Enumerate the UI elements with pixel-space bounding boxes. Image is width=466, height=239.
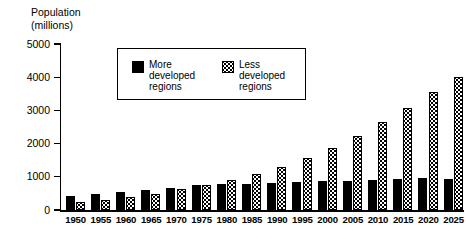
legend-entry-more-developed: Moredevelopedregions: [132, 59, 195, 93]
bar-2005-more-developed: [343, 181, 352, 210]
bar-2015-less-developed: [403, 108, 412, 210]
x-tick-label-1960: 1960: [113, 214, 138, 225]
bar-group-2010: [365, 44, 390, 210]
y-tick-label-2000: 2000: [4, 138, 50, 148]
bar-1995-more-developed: [292, 182, 301, 210]
x-tick-label-2025: 2025: [441, 214, 466, 225]
x-tick-label-2000: 2000: [315, 214, 340, 225]
x-tick-label-1950: 1950: [63, 214, 88, 225]
legend-label-less-developed: Lessdevelopedregions: [239, 59, 285, 93]
bar-2005-less-developed: [353, 136, 362, 210]
chart-axis-title: Population (millions): [31, 6, 81, 31]
x-tick-label-2015: 2015: [391, 214, 416, 225]
x-tick-label-2010: 2010: [365, 214, 390, 225]
legend-label-more-developed: Moredevelopedregions: [149, 59, 195, 93]
x-tick-label-1965: 1965: [139, 214, 164, 225]
bar-1985-less-developed: [252, 174, 261, 210]
bar-1975-less-developed: [202, 185, 211, 210]
x-tick-label-1990: 1990: [265, 214, 290, 225]
bar-2025-less-developed: [454, 77, 463, 210]
x-axis-line: [60, 210, 464, 212]
bar-1955-more-developed: [91, 194, 100, 210]
y-tick-label-3000: 3000: [4, 105, 50, 115]
legend-swatch-solid-icon: [132, 61, 144, 73]
axis-title-line-1: Population: [31, 6, 81, 19]
bar-1960-more-developed: [116, 192, 125, 210]
bar-2020-more-developed: [418, 178, 427, 210]
y-tick-label-1000: 1000: [4, 171, 50, 181]
bar-1960-less-developed: [126, 197, 135, 210]
legend-swatch-dotted-icon: [222, 61, 234, 73]
bar-1965-more-developed: [141, 190, 150, 210]
x-tick-label-1975: 1975: [189, 214, 214, 225]
bar-2015-more-developed: [393, 179, 402, 210]
x-tick-label-2005: 2005: [340, 214, 365, 225]
bar-group-2020: [416, 44, 441, 210]
bar-1950-less-developed: [76, 202, 85, 210]
x-tick-label-2020: 2020: [416, 214, 441, 225]
bar-group-2025: [441, 44, 466, 210]
bar-1970-less-developed: [177, 189, 186, 210]
bar-1955-less-developed: [101, 200, 110, 210]
bar-1970-more-developed: [166, 188, 175, 210]
bar-group-1950: [63, 44, 88, 210]
x-tick-label-1970: 1970: [164, 214, 189, 225]
bar-1985-more-developed: [242, 184, 251, 210]
bar-group-2000: [315, 44, 340, 210]
bar-2025-more-developed: [444, 179, 453, 210]
bar-1990-less-developed: [277, 167, 286, 210]
bar-1990-more-developed: [267, 183, 276, 210]
bar-group-1955: [88, 44, 113, 210]
y-tick-label-4000: 4000: [4, 72, 50, 82]
bar-2000-less-developed: [328, 148, 337, 210]
bar-group-2005: [340, 44, 365, 210]
bar-1980-less-developed: [227, 180, 236, 210]
x-tick-label-1985: 1985: [239, 214, 264, 225]
bar-group-2015: [391, 44, 416, 210]
y-tick-label-0: 0: [4, 205, 50, 215]
x-tick-label-1980: 1980: [214, 214, 239, 225]
x-tick-label-1955: 1955: [88, 214, 113, 225]
bar-2010-less-developed: [378, 122, 387, 210]
population-bar-chart: Population (millions) 010002000300040005…: [0, 0, 466, 239]
axis-title-line-2: (millions): [31, 19, 81, 32]
bar-1965-less-developed: [151, 194, 160, 210]
bar-1995-less-developed: [303, 158, 312, 210]
bar-1980-more-developed: [217, 184, 226, 210]
bar-1950-more-developed: [66, 196, 75, 210]
bar-2010-more-developed: [368, 180, 377, 210]
x-tick-label-1995: 1995: [290, 214, 315, 225]
legend-entry-less-developed: Lessdevelopedregions: [222, 59, 285, 93]
bar-2020-less-developed: [429, 92, 438, 210]
y-tick-label-5000: 5000: [4, 39, 50, 49]
bar-2000-more-developed: [318, 181, 327, 210]
bar-1975-more-developed: [192, 185, 201, 210]
chart-legend: Moredevelopedregions Lessdevelopedregion…: [117, 48, 306, 100]
